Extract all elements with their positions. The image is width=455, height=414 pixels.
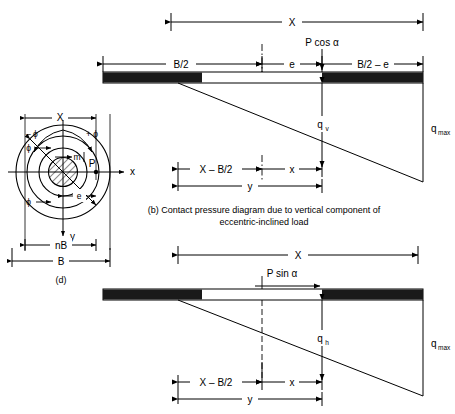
panel-d-dim-nB-label: nB [55,240,68,251]
panel-d-m-label: m [73,152,80,162]
panel-c-load-label: P sin α [267,268,298,279]
panel-b-qmax-label: q [431,123,437,134]
panel-d-dim-e-label: e [77,191,82,201]
panel-c-qmax-sublabel: max [438,344,451,351]
panel-c-qmax-label: q [431,338,437,349]
panel-d-point-P [94,170,98,174]
panel-b-bar-left-solid [103,73,202,83]
panel-c-dim-y: y [178,392,322,406]
panel-b-dim-row: B/2 e B/2 – e [103,56,423,72]
panel-c-dim-x-label: x [290,377,295,388]
panel-c-dim-y-label: y [248,394,253,405]
panel-d-group: X x y + ϕ – ϕ ϕ ϕ [8,110,135,285]
panel-d-point-P-label: P [89,158,96,169]
panel-c-bar-right-solid [322,290,423,300]
panel-d-dim-nB: nB [25,238,96,252]
panel-b-footing-bar [103,72,423,83]
panel-b-qmax-label-group: q max [431,123,451,136]
panel-b-qv-label: q [317,119,323,130]
panel-c-load-arrow: P sin α [255,268,320,286]
panel-b-dim-e-label: e [289,59,295,70]
panel-b-qv-dim: q v [314,83,331,167]
figure-root: X P cos α B/2 e B/2 – e [0,0,455,414]
panel-d-phi-label-2: ϕ [26,197,31,207]
panel-c-qh-dim: q h [314,300,331,380]
panel-c-qh-sublabel: h [325,339,329,346]
panel-c-group: X P sin α q h q max [103,246,451,406]
panel-b-caption-line2: eccentric-inclined load [219,217,308,227]
panel-c-bar-left-solid [103,290,202,300]
panel-b-caption-line1: (b) Contact pressure diagram due to vert… [148,205,381,215]
panel-d-caption: (d) [56,275,67,285]
panel-d-axis-x-label: x [130,166,135,177]
panel-d-phi-label-1: ϕ [26,143,31,153]
diagram-canvas: X P cos α B/2 e B/2 – e [0,0,455,414]
panel-b-dim-Bhalf-label: B/2 [173,59,188,70]
panel-c-dim-X-label: X [295,250,302,261]
panel-b-qmax-sublabel: max [438,129,451,136]
panel-d-phi-minus-label: – ϕ [26,129,38,139]
panel-c-dim-XminusB2-label: X – B/2 [200,377,233,388]
panel-b-group: X P cos α B/2 e B/2 – e [103,13,451,227]
panel-b-dim-XminusB2-label: X – B/2 [200,164,233,175]
panel-d-phi-plus-label: + ϕ [86,129,98,139]
panel-c-footing-bar [103,289,423,300]
panel-b-dim-X: X [171,13,423,31]
panel-b-dim-y-label: y [248,181,253,192]
panel-b-dim-x-label: x [290,164,295,175]
panel-d-dim-X: X [25,110,96,124]
panel-c-dim-X: X [178,246,418,264]
panel-b-bar-right-solid [322,73,423,83]
panel-b-dim-Bhalf-minus-e-label: B/2 – e [357,59,389,70]
panel-d-dim-B-label: B [58,256,65,267]
panel-c-qmax-label-group: q max [431,338,451,351]
panel-c-qh-label: q [317,333,323,344]
panel-b-dim-y: y [178,179,322,193]
panel-b-load-label: P cos α [305,37,339,48]
panel-b-dim-X-label: X [289,17,296,28]
